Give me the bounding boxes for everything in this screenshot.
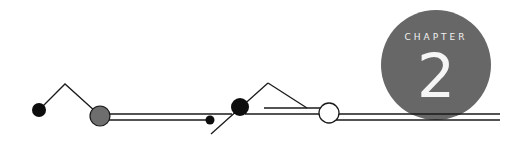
node-open: [319, 103, 339, 123]
node-black-tiny: [206, 116, 215, 125]
zigzag-down-right: [268, 83, 307, 108]
chapter-number: 2: [383, 44, 489, 108]
zigzag-line-left: [39, 84, 96, 112]
node-black-small-left: [32, 103, 46, 117]
node-black-large: [231, 98, 249, 116]
node-gray: [90, 106, 110, 126]
